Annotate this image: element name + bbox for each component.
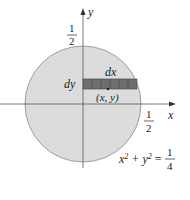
disk-diagram: y x 1 2 1 2 dx dy (x, y) x2 + y2 = 1 4 [0, 0, 190, 200]
dx-label: dx [105, 65, 117, 79]
point-label: (x, y) [96, 91, 119, 104]
x-tick-den: 2 [146, 122, 152, 134]
x-axis-label: x [167, 108, 174, 122]
x-tick-num: 1 [146, 108, 152, 120]
dy-label: dy [64, 77, 76, 91]
y-tick-num: 1 [69, 22, 75, 34]
equation-lhs: x2 + y2 = [118, 152, 162, 166]
equation-num: 1 [167, 146, 173, 158]
equation-den: 4 [167, 160, 173, 172]
x-axis-arrow-icon [169, 102, 176, 107]
y-axis-label: y [87, 5, 94, 19]
y-tick-den: 2 [69, 35, 75, 47]
strip [83, 79, 137, 90]
y-axis-arrow-icon [81, 8, 86, 15]
